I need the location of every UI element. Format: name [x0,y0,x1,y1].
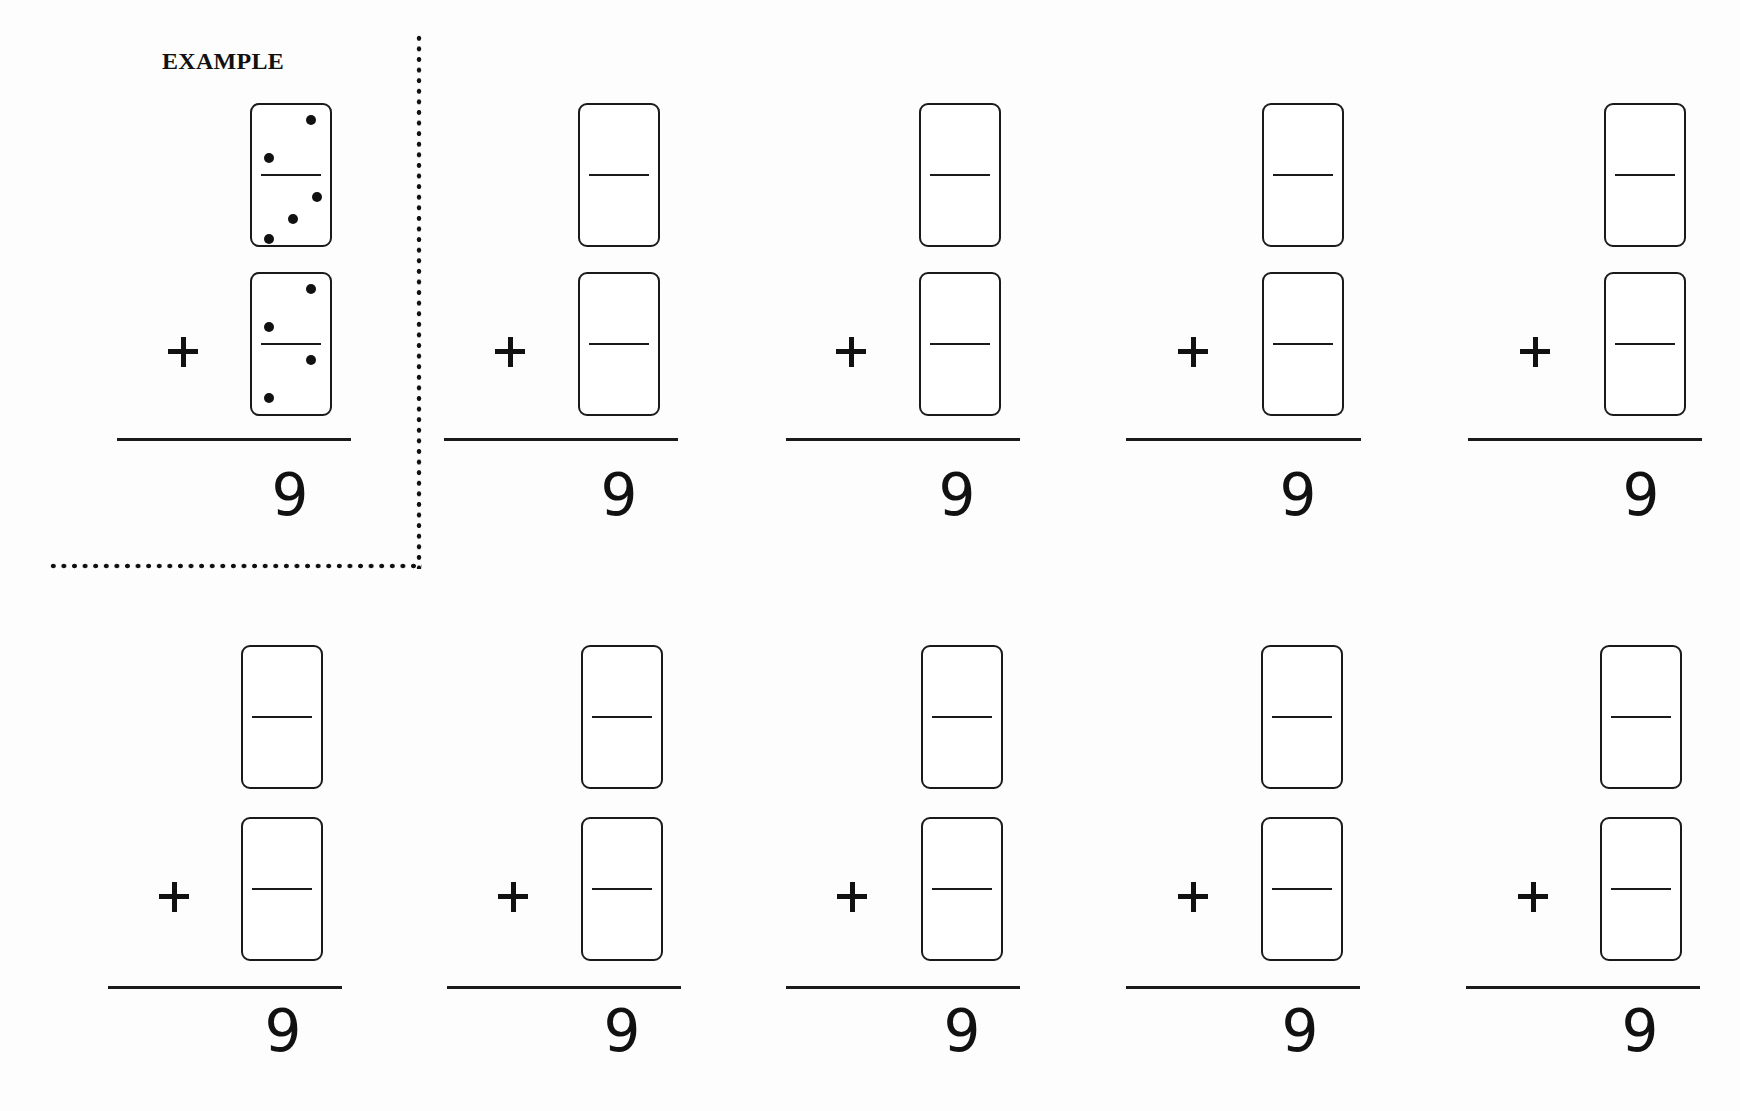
example-divider-horizontal [48,563,422,569]
pip [264,234,274,244]
sum-value: 9 [1270,1002,1330,1060]
domino-bottom-half [1264,345,1342,415]
domino-bottom-half [583,718,661,788]
bottom-domino[interactable] [1600,817,1682,961]
domino-top-half [1263,647,1341,717]
pip [264,393,274,403]
plus-icon [1178,882,1208,912]
pip [264,322,274,332]
domino-top-half [1264,274,1342,344]
domino-bottom-half [1602,890,1680,960]
pip [288,214,298,224]
domino-top-half [1602,647,1680,717]
plus-icon [1520,337,1550,367]
pip [264,153,274,163]
sum-value: 9 [1610,1002,1670,1060]
domino-top-half [921,274,999,344]
top-domino[interactable] [1604,103,1686,247]
domino-bottom-half [243,718,321,788]
plus-icon [495,337,525,367]
example-label: EXAMPLE [162,49,284,73]
domino-bottom-half [923,890,1001,960]
top-domino[interactable] [241,645,323,789]
plus-icon [159,882,189,912]
top-domino[interactable] [581,645,663,789]
domino-bottom-half [243,890,321,960]
bottom-domino[interactable] [919,272,1001,416]
bottom-domino [250,272,332,416]
domino-top-half [580,105,658,175]
plus-icon [837,882,867,912]
domino-top-half [583,647,661,717]
top-domino[interactable] [1261,645,1343,789]
sum-value: 9 [1611,466,1671,524]
domino-bottom-half [580,176,658,246]
bottom-domino[interactable] [578,272,660,416]
domino-bottom-half [1264,176,1342,246]
pip [306,284,316,294]
bottom-domino[interactable] [1261,817,1343,961]
plus-icon [498,882,528,912]
domino-top-half [580,274,658,344]
sum-value: 9 [1268,466,1328,524]
sum-value: 9 [592,1002,652,1060]
sum-line [447,986,681,989]
bottom-domino[interactable] [1604,272,1686,416]
domino-bottom-half [1263,718,1341,788]
sum-value: 9 [253,1002,313,1060]
domino-top-half [1602,819,1680,889]
domino-bottom-half [1606,345,1684,415]
domino-bottom-half [1263,890,1341,960]
sum-line [1466,986,1700,989]
domino-top-half [923,647,1001,717]
sum-value: 9 [927,466,987,524]
sum-value: 9 [932,1002,992,1060]
top-domino [250,103,332,247]
domino-top-half [921,105,999,175]
worksheet-page: EXAMPLE 9999999999 [0,0,1740,1111]
sum-value: 9 [589,466,649,524]
pip [306,355,316,365]
domino-bottom-half [583,890,661,960]
domino-bottom-half [923,718,1001,788]
bottom-domino[interactable] [581,817,663,961]
domino-bottom-half [1602,718,1680,788]
top-domino[interactable] [1262,103,1344,247]
plus-icon [168,337,198,367]
top-domino[interactable] [919,103,1001,247]
example-divider-vertical [416,33,422,569]
domino-top-half [252,274,330,344]
plus-icon [1178,337,1208,367]
sum-line [117,438,351,441]
top-domino[interactable] [578,103,660,247]
sum-line [786,438,1020,441]
domino-top-half [1263,819,1341,889]
domino-bottom-half [921,345,999,415]
domino-top-half [243,819,321,889]
domino-bottom-half [1606,176,1684,246]
domino-bottom-half [252,345,330,415]
domino-bottom-half [580,345,658,415]
domino-top-half [243,647,321,717]
sum-line [444,438,678,441]
pip [306,115,316,125]
plus-icon [836,337,866,367]
domino-bottom-half [252,176,330,246]
domino-bottom-half [921,176,999,246]
domino-top-half [923,819,1001,889]
domino-top-half [1264,105,1342,175]
plus-icon [1518,882,1548,912]
domino-top-half [1606,105,1684,175]
sum-line [786,986,1020,989]
sum-line [1468,438,1702,441]
top-domino[interactable] [921,645,1003,789]
sum-line [108,986,342,989]
domino-top-half [583,819,661,889]
pip [312,192,322,202]
top-domino[interactable] [1600,645,1682,789]
bottom-domino[interactable] [921,817,1003,961]
sum-line [1126,986,1360,989]
bottom-domino[interactable] [241,817,323,961]
bottom-domino[interactable] [1262,272,1344,416]
domino-top-half [1606,274,1684,344]
